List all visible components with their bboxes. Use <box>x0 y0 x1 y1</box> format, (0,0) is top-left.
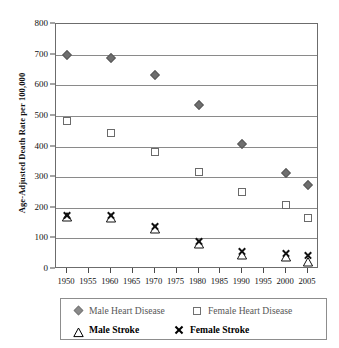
y-axis-tick-mark <box>50 114 55 115</box>
x-cross-icon <box>174 324 185 335</box>
y-axis-tick-label: 400 <box>14 141 48 151</box>
legend-label: Male Stroke <box>89 324 139 335</box>
point-x-cross <box>194 237 203 246</box>
point-filled-diamond <box>62 50 72 60</box>
filled-diamond-icon <box>73 305 84 316</box>
y-axis-tick-label: 0 <box>14 263 48 273</box>
gridline <box>56 85 317 86</box>
gridline <box>56 55 317 56</box>
point-x-cross <box>63 211 72 220</box>
legend-row-2: Male Stroke Female Stroke <box>61 320 326 339</box>
point-x-cross <box>282 248 291 257</box>
y-axis-tick-label: 700 <box>14 49 48 59</box>
legend-item-female-stroke[interactable]: Female Stroke <box>174 324 249 335</box>
x-axis-tick-mark <box>110 268 111 273</box>
legend-label: Female Heart Disease <box>208 305 292 316</box>
point-open-square <box>63 117 71 125</box>
legend-label: Male Heart Disease <box>89 305 165 316</box>
y-axis-tick-label: 200 <box>14 202 48 212</box>
x-axis-tick-mark <box>88 268 89 273</box>
point-filled-diamond <box>150 70 160 80</box>
y-axis-tick-label: 100 <box>14 232 48 242</box>
point-x-cross <box>304 251 313 260</box>
x-axis-tick-label: 2005 <box>287 276 327 286</box>
point-filled-diamond <box>303 180 313 190</box>
point-open-square <box>282 201 290 209</box>
y-axis-tick-mark <box>50 176 55 177</box>
y-axis-tick-label: 800 <box>14 18 48 28</box>
point-open-square <box>195 168 203 176</box>
x-axis-tick-mark <box>263 268 264 273</box>
y-axis-tick-label: 600 <box>14 79 48 89</box>
point-open-square <box>304 214 312 222</box>
x-axis-tick-mark <box>241 268 242 273</box>
legend-item-female-heart-disease[interactable]: Female Heart Disease <box>192 305 292 316</box>
open-triangle-icon <box>73 324 84 335</box>
point-x-cross <box>238 246 247 255</box>
open-square-icon <box>192 305 203 316</box>
x-axis-tick-mark <box>132 268 133 273</box>
legend-label: Female Stroke <box>190 324 249 335</box>
point-filled-diamond <box>194 100 204 110</box>
y-axis-tick-mark <box>50 145 55 146</box>
chart-legend: Male Heart Disease Female Heart Disease … <box>60 298 327 340</box>
gridline <box>56 147 317 148</box>
x-axis-tick-mark <box>154 268 155 273</box>
legend-item-male-heart-disease[interactable]: Male Heart Disease <box>73 305 165 316</box>
y-axis-tick-label: 500 <box>14 110 48 120</box>
y-axis-tick-mark <box>50 53 55 54</box>
legend-item-male-stroke[interactable]: Male Stroke <box>73 324 139 335</box>
x-axis-tick-mark <box>307 268 308 273</box>
y-axis-tick-mark <box>50 268 55 269</box>
x-axis-tick-mark <box>66 268 67 273</box>
y-axis-tick-mark <box>50 206 55 207</box>
plot-area <box>55 23 318 268</box>
gridline <box>56 238 317 239</box>
x-axis-tick-mark <box>285 268 286 273</box>
x-axis-tick-mark <box>219 268 220 273</box>
legend-row-1: Male Heart Disease Female Heart Disease <box>61 301 326 320</box>
point-x-cross <box>150 221 159 230</box>
point-x-cross <box>106 211 115 220</box>
gridline <box>56 208 317 209</box>
point-open-square <box>107 129 115 137</box>
point-filled-diamond <box>281 168 291 178</box>
gridline <box>56 177 317 178</box>
y-axis-tick-mark <box>50 237 55 238</box>
y-axis-tick-label: 300 <box>14 171 48 181</box>
y-axis-tick-mark <box>50 84 55 85</box>
point-open-square <box>151 148 159 156</box>
scatter-chart: Age-Adjusted Death Rate per 100,000 8007… <box>0 0 339 348</box>
y-axis-tick-mark <box>50 23 55 24</box>
x-axis-tick-mark <box>198 268 199 273</box>
gridline <box>56 116 317 117</box>
point-open-square <box>238 188 246 196</box>
x-axis-tick-mark <box>176 268 177 273</box>
